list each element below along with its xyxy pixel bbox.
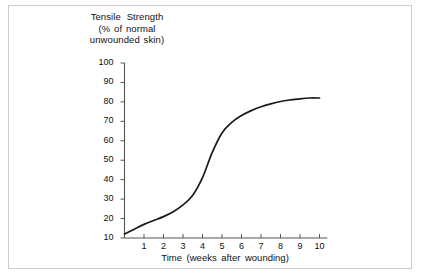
data-series-line	[125, 98, 320, 234]
figure-canvas: Tensile Strength (% of normal unwounded …	[0, 0, 421, 280]
y-tick-label: 90	[88, 76, 114, 86]
y-tick-label: 100	[88, 57, 114, 67]
y-tick-label: 40	[88, 174, 114, 184]
y-tick-label: 70	[88, 115, 114, 125]
x-tick-label: 1	[134, 241, 154, 251]
x-tick-label: 8	[271, 241, 291, 251]
y-tick-label: 60	[88, 135, 114, 145]
x-tick-label: 10	[310, 241, 330, 251]
plot-area	[0, 0, 421, 280]
y-tick-label: 50	[88, 154, 114, 164]
x-tick-label: 5	[212, 241, 232, 251]
ticks-group	[121, 63, 320, 238]
x-tick-label: 7	[251, 241, 271, 251]
y-tick-label: 20	[88, 213, 114, 223]
x-tick-label: 2	[154, 241, 174, 251]
x-tick-label: 3	[173, 241, 193, 251]
y-tick-label: 30	[88, 193, 114, 203]
x-tick-label: 9	[290, 241, 310, 251]
y-tick-label: 10	[88, 232, 114, 242]
x-axis-title: Time (weeks after wounding)	[120, 252, 330, 263]
axes-group	[125, 63, 328, 238]
x-tick-label: 4	[193, 241, 213, 251]
x-tick-label: 6	[232, 241, 252, 251]
y-tick-label: 80	[88, 96, 114, 106]
